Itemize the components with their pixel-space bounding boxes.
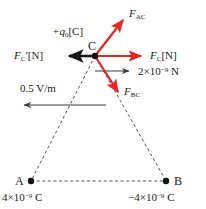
charge-a-mantissa: 4×10	[2, 191, 25, 203]
test-charge-unit: [C]	[68, 25, 83, 37]
vector-f-bc	[95, 56, 118, 92]
field-scale-label: 0.5 V/m	[20, 83, 56, 94]
vector-label-f-ac: FAC	[129, 8, 145, 21]
f-bc-subscript: BC	[131, 91, 140, 99]
charge-a-unit: C	[32, 191, 42, 203]
charge-b-mantissa: −4×10	[128, 191, 157, 203]
test-charge-label: +q0[C]	[52, 26, 83, 39]
force-scale-label: 2×10−9 N	[138, 66, 179, 77]
f-c-base: F	[150, 49, 157, 61]
vertex-dot-a	[28, 178, 34, 184]
f-ac-base: F	[129, 7, 136, 19]
vector-f-ac	[95, 20, 123, 56]
f-cp-unit: [N]	[28, 49, 43, 61]
vertex-dot-c	[92, 53, 98, 59]
vertex-label-a: A	[15, 175, 24, 187]
vector-label-f-c-prime: FC′[N]	[14, 50, 43, 63]
f-bc-base: F	[124, 85, 131, 97]
f-ac-subscript: AC	[136, 13, 146, 21]
force-scale-mantissa: 2×10	[138, 65, 161, 77]
f-c-unit: [N]	[161, 49, 176, 61]
charge-b-unit: C	[164, 191, 174, 203]
vector-label-f-bc: FBC	[124, 86, 140, 99]
test-charge-q: +q	[52, 25, 65, 37]
force-diagram-figure: +q0[C] C FAC FC′[N] FC[N] 2×10−9 N FBC 0…	[0, 0, 206, 209]
test-charge-symbol: +q0[C]	[52, 25, 83, 37]
charge-label-b: −4×10−9 C	[128, 192, 174, 203]
vertex-label-c: C	[88, 40, 96, 52]
f-cp-base: F	[14, 49, 21, 61]
triangle-side-ca	[31, 56, 95, 181]
vector-label-f-c: FC[N]	[150, 50, 177, 63]
vertex-dot-b	[163, 178, 169, 184]
force-scale-unit: N	[168, 65, 179, 77]
vertex-label-b: B	[174, 175, 182, 187]
charge-label-a: 4×10−9 C	[2, 192, 42, 203]
